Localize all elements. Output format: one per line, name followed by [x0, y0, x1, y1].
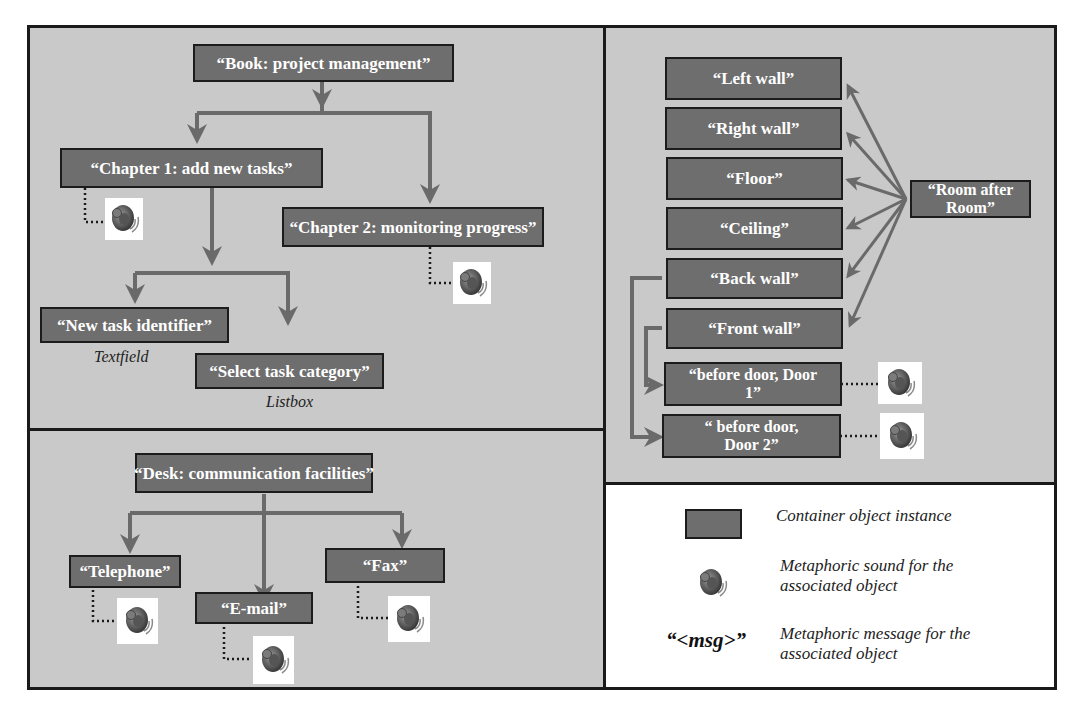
speaker-icon [690, 560, 734, 606]
legend-msg-label-line2: associated object [780, 644, 970, 664]
speaker-icon [880, 413, 924, 459]
email-node: “E-mail” [195, 592, 313, 624]
legend-msg-label-line1: Metaphoric message for the [780, 624, 970, 644]
room-item-right-wall: “Right wall” [665, 107, 842, 150]
book-root-node: “Book: project management” [193, 44, 454, 82]
desk-root-node: “Desk: communication facilities” [135, 453, 373, 493]
room-after-room-node: “Room after Room” [910, 180, 1031, 218]
speaker-icon [105, 198, 143, 240]
legend-msg-label: Metaphoric message for the associated ob… [780, 624, 970, 664]
room-item-left-wall: “Left wall” [665, 57, 842, 100]
legend-sound-label: Metaphoric sound for the associated obje… [780, 556, 953, 596]
speaker-icon [453, 262, 491, 304]
before-door-1-node: “before door, Door 1” [664, 362, 842, 406]
legend-sound-label-line2: associated object [780, 576, 953, 596]
speaker-icon [253, 636, 294, 684]
speaker-icon [117, 598, 158, 644]
fax-node: “Fax” [325, 548, 445, 583]
textfield-caption: Textfield [94, 348, 149, 366]
vertical-divider [603, 25, 606, 690]
room-item-back-wall: “Back wall” [666, 258, 843, 299]
new-task-identifier-node: “New task identifier” [40, 307, 229, 343]
room-item-floor: “Floor” [666, 157, 843, 200]
legend-container-label: Container object instance [776, 506, 952, 526]
speaker-icon [388, 596, 430, 642]
select-task-category-node: “Select task category” [195, 353, 384, 389]
legend-msg-symbol: “<msg>” [666, 628, 746, 653]
room-item-front-wall: “Front wall” [666, 308, 843, 349]
legend-container-swatch [685, 509, 742, 539]
before-door-2-node: “ before door, Door 2” [662, 414, 841, 458]
speaker-icon [878, 362, 922, 404]
left-horizontal-divider [27, 428, 605, 431]
right-horizontal-divider [603, 482, 1057, 485]
chapter1-node: “Chapter 1: add new tasks” [60, 148, 323, 188]
room-item-ceiling: “Ceiling” [666, 207, 843, 250]
legend-sound-label-line1: Metaphoric sound for the [780, 556, 953, 576]
listbox-caption: Listbox [266, 393, 313, 411]
telephone-node: “Telephone” [69, 555, 181, 588]
chapter2-node: “Chapter 2: monitoring progress” [282, 207, 544, 247]
